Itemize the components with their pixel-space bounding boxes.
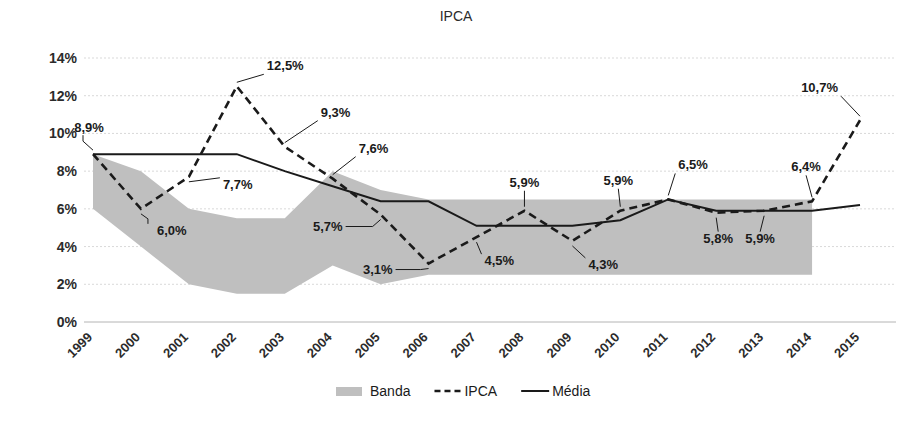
data-label-2006: 3,1% — [363, 262, 393, 277]
data-label-2004: 7,6% — [359, 141, 389, 156]
y-tick-2%: 2% — [57, 276, 78, 292]
data-label-2014: 6,4% — [791, 159, 821, 174]
y-tick-14%: 14% — [49, 50, 78, 66]
data-label-2015: 10,7% — [801, 80, 838, 95]
y-tick-6%: 6% — [57, 201, 78, 217]
data-label-2009: 4,3% — [588, 257, 618, 272]
data-label-2003: 9,3% — [321, 105, 351, 120]
data-label-2012: 5,8% — [703, 231, 733, 246]
data-label-2010: 5,9% — [603, 173, 633, 188]
y-tick-4%: 4% — [57, 239, 78, 255]
data-label-2008: 5,9% — [510, 175, 540, 190]
legend-label-banda: Banda — [370, 383, 411, 399]
data-label-2005: 5,7% — [313, 219, 343, 234]
y-tick-12%: 12% — [49, 88, 78, 104]
chart-title: IPCA — [440, 8, 473, 24]
data-label-2013: 5,9% — [745, 231, 775, 246]
ipca-chart: IPCA 0%2%4%6%8%10%12%14% 8,9%6,0%7,7%12,… — [0, 0, 913, 426]
data-label-2000: 6,0% — [157, 223, 187, 238]
legend-swatch-banda — [336, 387, 362, 396]
data-label-2011: 6,5% — [678, 157, 708, 172]
legend-label-média: Média — [552, 383, 590, 399]
data-label-2007: 4,5% — [485, 253, 515, 268]
chart-canvas: IPCA 0%2%4%6%8%10%12%14% 8,9%6,0%7,7%12,… — [0, 0, 913, 426]
y-tick-8%: 8% — [57, 163, 78, 179]
data-label-2002: 12,5% — [267, 58, 304, 73]
legend-label-ipca: IPCA — [464, 383, 497, 399]
y-tick-0%: 0% — [57, 314, 78, 330]
data-label-2001: 7,7% — [223, 177, 253, 192]
data-label-1999: 8,9% — [74, 120, 104, 135]
